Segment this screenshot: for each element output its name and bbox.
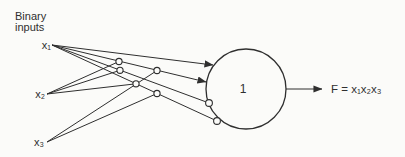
excitatory-fiber-x1-a	[52, 45, 213, 65]
input-label-x2: x₂	[35, 88, 45, 100]
junction-circle-5	[154, 90, 160, 96]
caption-binary-inputs-line2: inputs	[15, 21, 45, 33]
input-label-x1: x₁	[42, 39, 52, 51]
input-label-x3: x₃	[34, 136, 44, 148]
junction-circle-2	[117, 67, 123, 73]
junction-circle-1	[116, 58, 122, 64]
inhibitory-circle-1	[206, 100, 213, 107]
branch-x2-a	[47, 62, 119, 95]
output-expression: F = x₁x₂x₃	[331, 83, 382, 95]
branch-x2-b	[47, 70, 120, 94]
inhibitory-circle-2	[214, 118, 221, 125]
branch-x3-a	[47, 71, 157, 143]
excitatory-fiber-x1-b	[52, 45, 206, 82]
neuron-threshold-label: 1	[240, 82, 247, 96]
branch-x3-b	[47, 94, 157, 143]
junction-circle-3	[133, 81, 139, 87]
inhibitory-fiber-x1-c	[52, 45, 209, 103]
diagram-canvas: Binary inputs x₁ x₂ x₃ 1 F = x₁x₂x₃	[0, 0, 405, 157]
junction-circle-4	[154, 67, 160, 73]
mcculloch-pitts-diagram: Binary inputs x₁ x₂ x₃ 1 F = x₁x₂x₃	[0, 0, 405, 157]
